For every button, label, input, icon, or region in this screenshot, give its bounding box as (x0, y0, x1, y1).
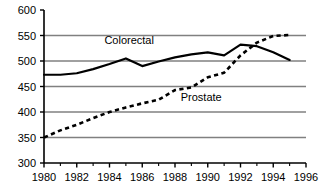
series-label-prostate: Prostate (181, 91, 222, 103)
x-tick-label: 1984 (97, 171, 121, 183)
chart-container: 300350400450500550600 198019821984198619… (0, 0, 327, 193)
y-tick-label: 550 (18, 30, 36, 42)
x-tick-label: 1980 (32, 171, 56, 183)
x-tick-label: 1990 (196, 171, 220, 183)
y-tick-label: 500 (18, 55, 36, 67)
y-axis-group (40, 10, 44, 163)
y-tick-label: 300 (18, 157, 36, 169)
x-tick-label: 1986 (130, 171, 154, 183)
series-annotations-group: ColorectalProstate (104, 34, 221, 104)
y-tick-label: 350 (18, 132, 36, 144)
x-tick-label: 1988 (163, 171, 187, 183)
x-tick-label: 1982 (65, 171, 89, 183)
y-tick-label: 400 (18, 106, 36, 118)
y-tick-labels-group: 300350400450500550600 (18, 4, 36, 169)
x-tick-label: 1992 (228, 171, 252, 183)
x-tick-label: 1996 (294, 171, 318, 183)
y-tick-label: 450 (18, 81, 36, 93)
series-label-colorectal: Colorectal (104, 34, 154, 46)
x-tick-labels-group: 198019821984198619881990199219941996 (32, 171, 318, 183)
line-chart: 300350400450500550600 198019821984198619… (0, 0, 327, 193)
x-axis-group (44, 163, 306, 168)
x-tick-label: 1994 (261, 171, 285, 183)
series-line-colorectal (44, 45, 290, 75)
y-tick-label: 600 (18, 4, 36, 16)
